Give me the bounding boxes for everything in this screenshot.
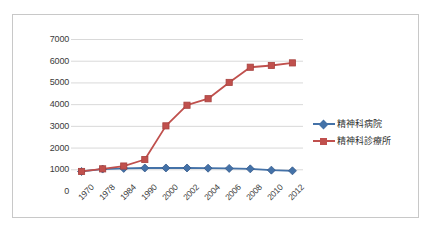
legend-item-1[interactable]: 精神科診療所: [313, 133, 423, 148]
data-point-1-4: [163, 123, 169, 129]
data-point-0-3: [141, 164, 149, 172]
data-point-0-8: [246, 165, 254, 173]
data-point-0-4: [162, 164, 170, 172]
plot-svg: [71, 39, 303, 191]
data-point-0-7: [225, 164, 233, 172]
y-axis-tick-label: 0: [64, 186, 69, 196]
legend-marker-psychiatric-hospital: [313, 118, 335, 129]
legend-label-psychiatric-clinic: 精神科診療所: [337, 134, 391, 147]
data-point-1-8: [247, 64, 253, 70]
x-axis-labels: 1970197819841990200020022004200620082010…: [71, 195, 303, 235]
y-axis-tick-label: 1000: [50, 164, 69, 174]
data-point-0-5: [183, 164, 191, 172]
data-point-0-6: [204, 164, 212, 172]
data-point-1-9: [268, 62, 274, 68]
y-axis-tick-label: 6000: [50, 56, 69, 66]
chart-container: 01000200030004000500060007000 1970197819…: [0, 0, 432, 241]
data-point-1-1: [100, 166, 106, 172]
data-point-1-0: [78, 168, 84, 174]
y-axis-tick-label: 4000: [50, 99, 69, 109]
legend-item-0[interactable]: 精神科病院: [313, 116, 423, 131]
legend-label-psychiatric-hospital: 精神科病院: [337, 117, 382, 130]
data-point-1-10: [289, 60, 295, 66]
legend-marker-psychiatric-clinic: [313, 135, 335, 146]
y-axis-labels: 01000200030004000500060007000: [29, 39, 69, 191]
data-point-0-10: [288, 167, 296, 175]
series-line-1: [82, 63, 293, 172]
chart-legend: 精神科病院 精神科診療所: [313, 116, 423, 150]
data-point-1-6: [205, 96, 211, 102]
y-axis-tick-label: 7000: [50, 34, 69, 44]
y-axis-tick-label: 5000: [50, 77, 69, 87]
data-point-1-7: [226, 79, 232, 85]
data-point-1-5: [184, 102, 190, 108]
y-axis-tick-label: 2000: [50, 143, 69, 153]
chart-frame: 01000200030004000500060007000 1970197819…: [12, 14, 419, 218]
plot-area: [71, 39, 303, 191]
y-axis-tick-label: 3000: [50, 121, 69, 131]
data-point-1-3: [142, 156, 148, 162]
data-point-1-2: [121, 163, 127, 169]
data-point-0-9: [267, 166, 275, 174]
